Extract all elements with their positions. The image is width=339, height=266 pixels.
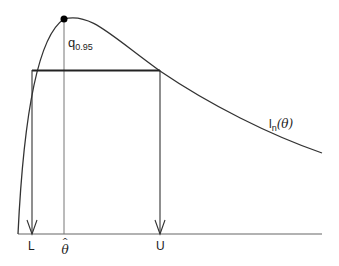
upper-bound-label: U (156, 240, 165, 252)
likelihood-diagram (0, 0, 339, 266)
mle-theta: θ (60, 244, 70, 256)
lower-bound-label: L (28, 240, 35, 252)
curve-label-arg: (θ) (277, 117, 294, 131)
peak-label-sub: 0.95 (75, 42, 93, 52)
peak-dot (61, 16, 68, 23)
mle-label: ^ θ (60, 238, 70, 256)
curve-label: ln(θ) (269, 118, 293, 133)
peak-label: q0.95 (68, 36, 93, 52)
